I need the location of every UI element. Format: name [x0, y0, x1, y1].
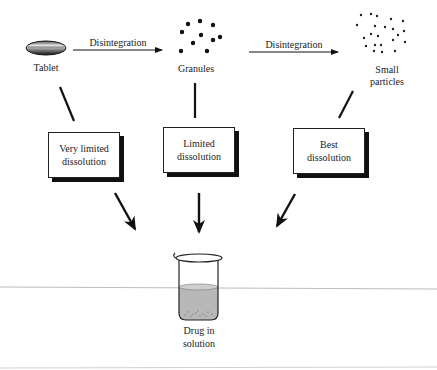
disintegration-label-1: Disintegration [80, 37, 156, 49]
arrow-best-to-solution [277, 194, 295, 226]
outcome-box-very-limited: Very limited dissolution [48, 132, 120, 178]
diagram-graphics [0, 0, 437, 370]
small-particles-label-line1: Small [357, 64, 417, 76]
result-label-line1: Drug in [170, 325, 228, 337]
outcome-line2: dissolution [59, 155, 109, 168]
disintegration-label-2: Disintegration [256, 39, 332, 51]
outcome-box-best: Best dissolution [293, 128, 365, 174]
dissolution-diagram: Tablet Granules Small particles Disinteg… [0, 0, 437, 370]
beaker-icon [174, 253, 222, 320]
scan-line-artifact [0, 367, 437, 368]
outcome-box-limited: Limited dissolution [163, 127, 235, 173]
outcome-line2: dissolution [307, 151, 351, 164]
outcome-line2: dissolution [177, 150, 221, 163]
granules-icon [179, 19, 222, 53]
tablet-icon [26, 41, 66, 55]
result-label-line2: solution [170, 338, 228, 350]
small-particles-label-line2: particles [357, 76, 417, 88]
outcome-line1: Very limited [59, 142, 109, 155]
tablet-label: Tablet [22, 62, 70, 74]
outcome-line1: Limited [177, 137, 221, 150]
small-particles-icon [356, 13, 406, 53]
outcome-line1: Best [307, 138, 351, 151]
arrow-very-limited-to-solution [115, 193, 135, 229]
connector-small-particles [339, 91, 353, 118]
connector-tablet [60, 87, 74, 121]
granules-label: Granules [168, 63, 224, 75]
